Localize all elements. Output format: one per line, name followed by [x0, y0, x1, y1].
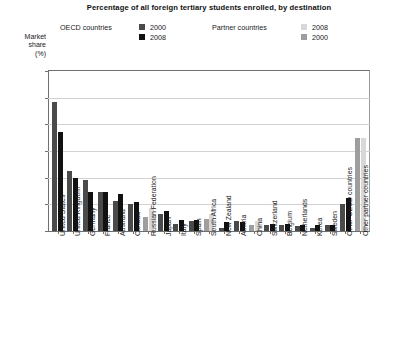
- x-axis-category-label: Germany: [89, 208, 96, 236]
- legend-item: 2000: [139, 22, 166, 32]
- bar-2000: [67, 171, 72, 231]
- legend-item: 2008: [301, 22, 328, 32]
- bar-2000: [113, 201, 118, 231]
- y-axis-tick-mark: [45, 204, 48, 205]
- bar-2000: [325, 225, 330, 231]
- y-axis-tick-mark: [45, 151, 48, 152]
- bar-group: [307, 70, 322, 231]
- bar-group: [126, 70, 141, 231]
- chart-container: Percentage of all foreign tertiary stude…: [0, 0, 418, 347]
- y-axis-tick-mark: [45, 98, 48, 99]
- bar-2000: [98, 192, 103, 231]
- bar-2000: [264, 225, 269, 231]
- bar-2000: [189, 221, 194, 231]
- legend-item: 2000: [301, 32, 328, 42]
- bar-2000: [52, 102, 57, 231]
- y-axis-tick-mark: [45, 71, 48, 72]
- y-axis-label-line: share: [6, 41, 46, 49]
- bar-group: [95, 70, 110, 231]
- y-axis-tick-mark: [45, 124, 48, 125]
- chart-legend: OECD countries 2000 2008 Partner countri…: [60, 22, 410, 48]
- legend-entries: 2000 2008: [139, 22, 166, 42]
- y-axis-label-line: Market: [6, 33, 46, 41]
- bar-2000: [128, 204, 133, 231]
- legend-swatch-partner-2000: [301, 34, 307, 40]
- legend-swatch-partner-2008: [301, 24, 307, 30]
- bar-2000: [310, 228, 315, 231]
- y-axis-label-line: (%): [6, 50, 46, 58]
- x-axis-category-label: Italy: [180, 223, 187, 236]
- x-axis-category-label: United Kingdom: [74, 187, 81, 236]
- legend-entries: 2008 2000: [301, 22, 328, 42]
- legend-label: 2000: [312, 33, 328, 43]
- bar-group: [232, 70, 247, 231]
- plot-area: 051015202530: [48, 70, 370, 232]
- x-axis-category-label: France: [104, 215, 111, 236]
- bar-2000: [355, 138, 360, 231]
- bar-group: [186, 70, 201, 231]
- x-axis-category-label: Japan: [165, 217, 172, 236]
- legend-group-title: Partner countries: [212, 23, 267, 32]
- legend-group-title: OECD countries: [60, 23, 112, 32]
- x-axis-category-label: Canada: [134, 212, 141, 236]
- bar-group: [277, 70, 292, 231]
- x-axis-category-label: Korea: [316, 218, 323, 236]
- x-axis-category-label: Other OECD countries: [346, 167, 353, 236]
- bar-2000: [234, 221, 239, 231]
- bar-group: [247, 70, 262, 231]
- x-axis-category-label: China: [256, 218, 263, 236]
- y-axis-tick-mark: [45, 231, 48, 232]
- bar-group: [323, 70, 338, 231]
- bar-group: [156, 70, 171, 231]
- bar-group: [171, 70, 186, 231]
- bar-2000: [158, 214, 163, 231]
- x-axis-category-label: New Zealand: [225, 195, 232, 236]
- y-axis-label: Market share (%): [6, 33, 46, 58]
- bar-2000: [249, 225, 254, 231]
- x-axis-category-label: Other partner countries: [362, 165, 369, 236]
- legend-swatch-oecd-2008: [139, 34, 145, 40]
- bar-2000: [219, 228, 224, 231]
- x-axis-category-label: Sweden: [331, 211, 338, 236]
- x-axis-category-label: United States: [59, 195, 66, 236]
- x-axis-category-label: Netherlands: [301, 199, 308, 236]
- bar-2000: [83, 180, 88, 231]
- bar-2000: [143, 217, 148, 231]
- chart-title: Percentage of all foreign tertiary stude…: [0, 3, 418, 12]
- x-axis-category-label: Switzerland: [271, 200, 278, 236]
- x-axis-category-labels: United StatesUnited KingdomGermanyFrance…: [48, 236, 370, 344]
- x-axis-category-label: Belgium: [286, 211, 293, 236]
- x-axis-category-label: Australia: [119, 209, 126, 236]
- x-axis-category-label: Russian Federation: [150, 176, 157, 236]
- bar-2000: [340, 204, 345, 231]
- x-axis-category-label: South Africa: [210, 199, 217, 236]
- y-axis-tick-mark: [45, 178, 48, 179]
- legend-swatch-oecd-2000: [139, 24, 145, 30]
- bar-2000: [173, 224, 178, 231]
- bar-2000: [204, 219, 209, 231]
- x-axis-category-label: Spain: [195, 218, 202, 236]
- bar-2000: [295, 226, 300, 231]
- legend-label: 2008: [150, 33, 166, 43]
- x-axis-category-label: Austria: [240, 215, 247, 236]
- bar-series-layer: [49, 70, 369, 231]
- bar-group: [111, 70, 126, 231]
- bar-2000: [279, 225, 284, 231]
- legend-item: 2008: [139, 32, 166, 42]
